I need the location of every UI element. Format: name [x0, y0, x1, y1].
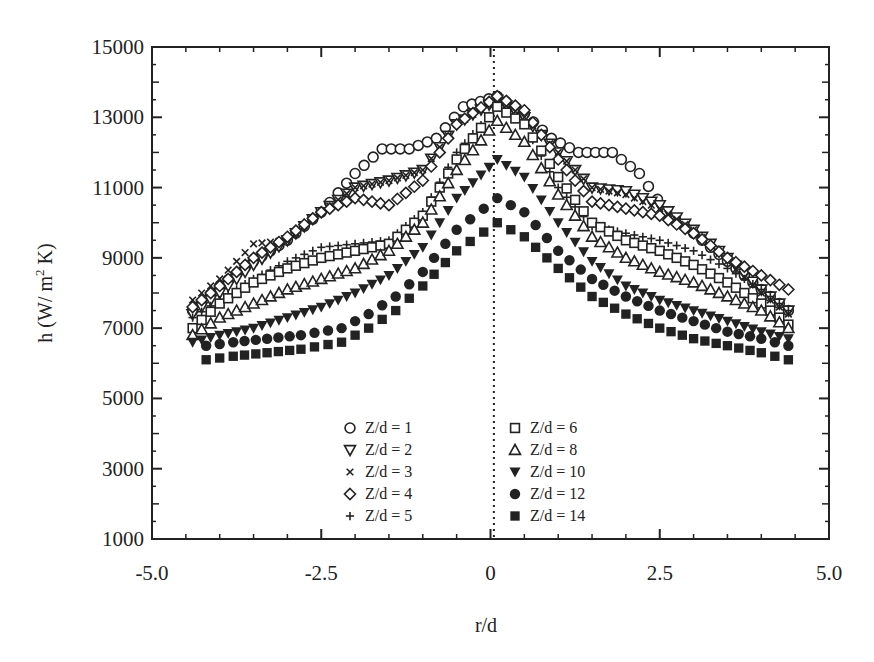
heat-transfer-chart: 10003000500070009000110001300015000 -5.0…	[0, 0, 874, 662]
x-axis-title: r/d	[475, 614, 497, 636]
legend-label: Z/d = 2	[365, 441, 412, 458]
x-tick-label: -5.0	[135, 561, 168, 585]
legend-label: Z/d = 3	[365, 463, 412, 480]
legend-item: Z/d = 14	[510, 507, 585, 524]
legend-item: Z/d = 4	[345, 485, 413, 502]
y-tick-label: 1000	[102, 527, 144, 551]
legend-item: Z/d = 12	[510, 485, 585, 502]
legend-item: Z/d = 6	[511, 419, 578, 436]
y-axis-title: h (W/ m2 K)	[32, 243, 57, 342]
legend-label: Z/d = 6	[530, 419, 577, 436]
data-series	[187, 91, 794, 365]
legend: Z/d = 1Z/d = 2Z/d = 3Z/d = 4Z/d = 5Z/d =…	[345, 419, 586, 524]
legend-label: Z/d = 10	[530, 463, 585, 480]
legend-item: Z/d = 2	[345, 441, 413, 458]
legend-label: Z/d = 1	[365, 419, 412, 436]
legend-item: Z/d = 10	[510, 463, 586, 480]
x-tick-label: 0	[485, 561, 496, 585]
series-z-d-8	[187, 115, 794, 339]
y-tick-label: 9000	[102, 246, 144, 270]
y-tick-label: 3000	[102, 457, 144, 481]
y-tick-label: 7000	[102, 316, 144, 340]
y-tick-label: 5000	[102, 386, 144, 410]
legend-item: Z/d = 3	[347, 463, 413, 480]
legend-label: Z/d = 4	[365, 485, 412, 502]
x-tick-label: -2.5	[305, 561, 338, 585]
series-z-d-4	[187, 91, 794, 313]
legend-item: Z/d = 5	[346, 507, 412, 524]
x-tick-label: 2.5	[647, 561, 673, 585]
x-tick-label: 5.0	[816, 561, 842, 585]
y-tick-label: 13000	[92, 105, 145, 129]
legend-label: Z/d = 12	[530, 485, 585, 502]
legend-item: Z/d = 1	[345, 419, 412, 436]
legend-item: Z/d = 8	[510, 441, 578, 458]
legend-label: Z/d = 14	[530, 507, 585, 524]
y-tick-label: 11000	[92, 176, 144, 200]
legend-label: Z/d = 5	[365, 507, 412, 524]
y-tick-label: 15000	[92, 35, 145, 59]
legend-label: Z/d = 8	[530, 441, 577, 458]
